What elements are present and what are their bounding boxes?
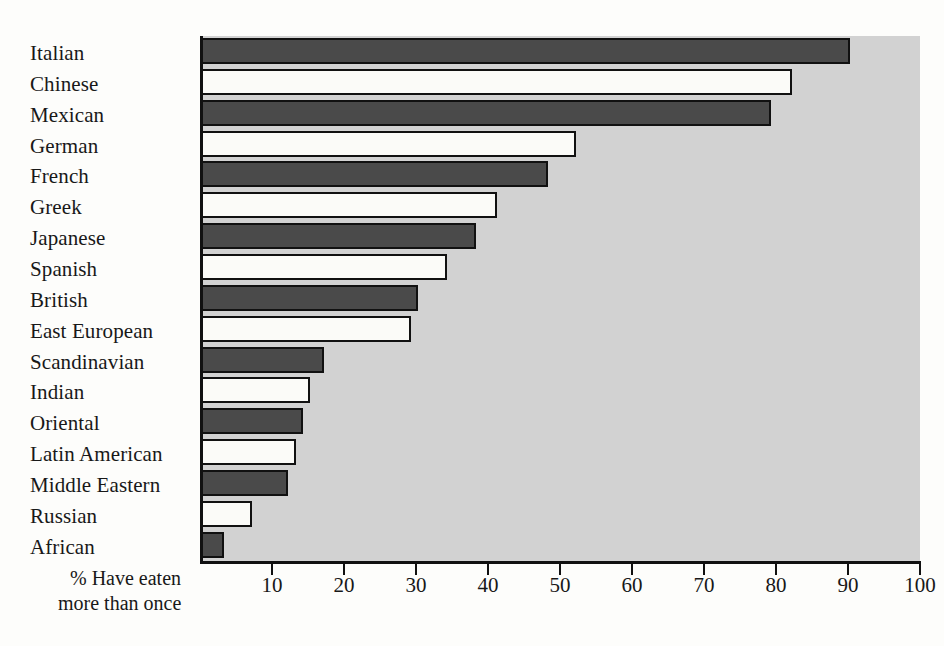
category-label: British	[0, 285, 182, 316]
category-label: Italian	[0, 38, 182, 69]
axis-title-line-1: % Have eaten	[58, 566, 258, 591]
category-label: Chinese	[0, 69, 182, 100]
bar-german	[200, 131, 576, 157]
bar-mexican	[200, 100, 771, 126]
axis-tick-label: 90	[838, 573, 859, 598]
category-label: African	[0, 532, 182, 563]
axis-tick-label: 60	[622, 573, 643, 598]
bar-italian	[200, 38, 850, 64]
bars-container	[200, 36, 918, 562]
bar-chinese	[200, 69, 792, 95]
bar-scandinavian	[200, 347, 324, 373]
bar-african	[200, 532, 224, 558]
axis-tick-label: 40	[478, 573, 499, 598]
category-label: Scandinavian	[0, 347, 182, 378]
axis-tick-label: 10	[262, 573, 283, 598]
bar-oriental	[200, 408, 303, 434]
category-axis-labels: ItalianChineseMexicanGermanFrenchGreekJa…	[0, 38, 190, 562]
axis-tick-label: 80	[766, 573, 787, 598]
value-axis-spine	[200, 36, 203, 564]
category-label: German	[0, 131, 182, 162]
category-label: Spanish	[0, 254, 182, 285]
bar-british	[200, 285, 418, 311]
axis-tick-label: 20	[334, 573, 355, 598]
category-label: Mexican	[0, 100, 182, 131]
value-axis-title: % Have eaten more than once	[58, 566, 258, 616]
axis-tick-label: 50	[550, 573, 571, 598]
bar-spanish	[200, 254, 447, 280]
category-label: Indian	[0, 377, 182, 408]
bar-indian	[200, 377, 310, 403]
bar-greek	[200, 192, 497, 218]
category-label: Greek	[0, 192, 182, 223]
category-label: Latin American	[0, 439, 182, 470]
axis-title-line-2: more than once	[58, 591, 258, 616]
bar-middle-eastern	[200, 470, 288, 496]
category-label: Russian	[0, 501, 182, 532]
bar-russian	[200, 501, 252, 527]
category-label: French	[0, 161, 182, 192]
axis-tick-label: 100	[904, 573, 936, 598]
bar-chart: ItalianChineseMexicanGermanFrenchGreekJa…	[0, 0, 944, 646]
category-label: Japanese	[0, 223, 182, 254]
category-label: East European	[0, 316, 182, 347]
bar-french	[200, 161, 548, 187]
plot-area	[200, 36, 920, 562]
bar-east-european	[200, 316, 411, 342]
category-label: Oriental	[0, 408, 182, 439]
category-label: Middle Eastern	[0, 470, 182, 501]
bar-japanese	[200, 223, 476, 249]
axis-tick-label: 70	[694, 573, 715, 598]
bar-latin-american	[200, 439, 296, 465]
axis-tick-label: 30	[406, 573, 427, 598]
